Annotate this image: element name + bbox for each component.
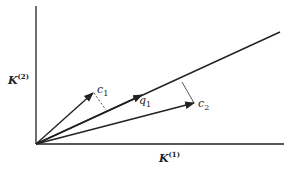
y-axis-label: K(2)	[7, 72, 29, 87]
vector-projection-diagram: c1 q1 c2 K(2) K(1)	[0, 0, 292, 170]
q1-label: q1	[139, 94, 151, 109]
x-axis-label: K(1)	[158, 150, 180, 165]
c2-label: c2	[198, 97, 209, 112]
c1-label: c1	[97, 83, 108, 98]
q1-arrow	[36, 95, 142, 144]
c2-projection	[182, 82, 194, 103]
